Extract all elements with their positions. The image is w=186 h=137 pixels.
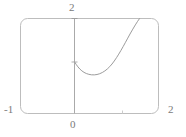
x-axis-max-label: 2 — [168, 104, 174, 115]
y-axis-max-label: 2 — [69, 2, 75, 13]
plot-frame — [21, 19, 159, 114]
x-axis-min-label: -1 — [4, 104, 13, 115]
plot-canvas — [0, 0, 186, 137]
curve-path — [75, 19, 140, 75]
origin-label: 0 — [70, 119, 76, 130]
function-plot-figure: 2 -1 2 0 — [0, 0, 186, 137]
